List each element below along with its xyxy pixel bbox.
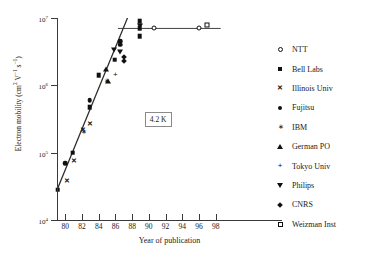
legend-label: NTT [288,45,308,54]
legend-label: Philips [288,181,314,190]
data-point-philips [117,50,123,55]
data-point-illinois-univ: ✕ [64,178,70,184]
data-point-bell-labs [87,105,92,110]
data-point-german-po [103,66,109,71]
y-tick-mark [51,220,57,221]
data-point-ntt [196,25,201,30]
data-point-bell-labs [137,19,142,24]
x-tick-mark [132,214,133,220]
data-point-fujitsu [63,161,68,166]
legend-label: Weizman Inst [288,220,336,229]
legend-item-ibm[interactable]: ∗IBM [272,118,366,137]
x-tick-mark [182,214,183,220]
x-tick-label: 90 [142,223,156,231]
legend-item-bell-labs[interactable]: Bell Labs [272,59,366,78]
data-point-philips [137,24,143,29]
y-tick-mark [51,85,57,86]
plot-area: ✕✕✕✕∗∗+ [57,18,224,220]
legend: NTTBell Labs✕Illinois UnivFujitsu∗IBMGer… [272,40,366,234]
x-tick-mark [115,214,116,220]
trend-line-svg [57,18,224,220]
x-axis-line [57,220,282,221]
y-tick-label: 106 [0,81,48,91]
legend-item-weizman-inst[interactable]: Weizman Inst [272,215,366,234]
data-point-german-po [105,79,111,84]
x-tick-label: 80 [58,223,72,231]
y-axis-line [57,18,58,220]
legend-label: Bell Labs [288,65,323,74]
x-tick-mark [99,214,100,220]
x-tick-mark [65,214,66,220]
y-axis-label: Electron mobility (cm2 V−1 s−1) [11,19,23,189]
square-filled-icon [272,67,288,72]
x-tick-label: 82 [75,223,89,231]
legend-label: Illinois Univ [288,84,333,93]
y-tick-mark [51,18,57,19]
legend-item-cnrs[interactable]: CNRS [272,195,366,214]
circle-filled-icon [272,106,288,111]
x-tick-label: 92 [159,223,173,231]
data-point-bell-labs [71,150,76,155]
legend-item-german-po[interactable]: German PO [272,137,366,156]
triangle-down-icon [272,183,288,188]
legend-item-philips[interactable]: Philips [272,176,366,195]
asterisk-icon: ∗ [272,125,288,130]
x-tick-mark [149,214,150,220]
x-tick-label: 96 [192,223,206,231]
data-point-bell-labs [137,34,142,39]
y-tick-mark [51,153,57,154]
legend-item-tokyo-univ[interactable]: +Tokyo Univ [272,156,366,175]
x-tick-mark [82,214,83,220]
x-axis-label: Year of publication [57,236,282,246]
data-point-fujitsu [118,42,123,47]
data-point-bell-labs [96,73,101,78]
legend-item-fujitsu[interactable]: Fujitsu [272,98,366,117]
temperature-annotation: 4.2 K [145,112,172,127]
circle-open-icon [272,47,288,52]
legend-label: CNRS [288,200,313,209]
data-point-fujitsu [87,98,92,103]
x-tick-label: 86 [108,223,122,231]
data-point-illinois-univ: ✕ [71,158,77,164]
legend-label: Fujitsu [288,103,314,112]
square-open-icon [272,222,288,227]
x-tick-mark [216,214,217,220]
triangle-up-icon [272,144,288,149]
legend-label: German PO [288,142,330,151]
legend-label: Tokyo Univ [288,162,330,171]
y-tick-label: 105 [0,149,48,159]
diamond-icon [272,203,288,207]
legend-label: IBM [288,123,307,132]
data-point-weizman-inst [205,22,210,27]
figure-root: ✕✕✕✕∗∗+ 104105106107 8082848688909294969… [0,0,366,273]
plus-icon: + [272,163,288,169]
x-tick-label: 94 [175,223,189,231]
data-point-ntt [151,26,156,31]
data-point-bell-labs [112,57,117,62]
y-tick-label: 104 [0,216,48,226]
x-tick-mark [199,214,200,220]
x-tick-label: 84 [92,223,106,231]
x-tick-mark [166,214,167,220]
legend-item-ntt[interactable]: NTT [272,40,366,59]
data-point-tokyo-univ: + [112,72,118,78]
data-point-ibm: ∗ [81,129,86,134]
x-tick-label: 88 [125,223,139,231]
data-point-illinois-univ: ✕ [87,121,93,127]
legend-item-illinois-univ[interactable]: ✕Illinois Univ [272,79,366,98]
y-tick-label: 107 [0,14,48,24]
x-cross-icon: ✕ [272,85,288,91]
x-tick-label: 98 [209,223,223,231]
